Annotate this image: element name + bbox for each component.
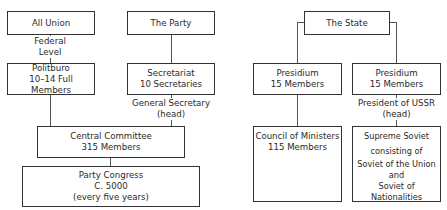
connector-state-right-v	[396, 22, 397, 63]
politburo-box: Politburo 10–14 Full Members	[7, 63, 95, 95]
council-of-ministers-title: Council of Ministers	[255, 131, 339, 142]
connector-politburo-central	[50, 94, 51, 126]
party-congress-note: (every five years)	[73, 192, 149, 203]
supreme-soviet-union: Soviet of the Union	[357, 159, 435, 170]
the-party-title: The Party	[151, 18, 192, 29]
presidium-left-title: Presidium	[276, 68, 318, 79]
supreme-soviet-box: Supreme Soviet consisting of Soviet of t…	[352, 126, 441, 202]
secretariat-title: Secretariat	[147, 68, 194, 79]
supreme-soviet-and: and	[389, 170, 404, 181]
politburo-title: Politburo	[32, 63, 70, 74]
party-congress-title: Party Congress	[79, 170, 144, 181]
presidium-right-subtitle: 15 Members	[370, 79, 424, 90]
presidium-right-title: Presidium	[375, 68, 417, 79]
connector-central-congress	[110, 157, 111, 166]
the-party-box: The Party	[127, 11, 215, 35]
general-secretary-label: General Secretary (head)	[128, 98, 214, 120]
presidium-left-subtitle: 15 Members	[271, 79, 325, 90]
secretariat-box: Secretariat 10 Secretaries	[127, 63, 215, 95]
all-union-box: All Union	[7, 11, 95, 35]
supreme-soviet-title: Supreme Soviet	[364, 131, 429, 142]
all-union-title: All Union	[32, 18, 70, 29]
presidium-left-box: Presidium 15 Members	[253, 63, 342, 95]
connector-state-left-v	[297, 22, 298, 63]
party-congress-box: Party Congress C. 5000 (every five years…	[22, 166, 200, 207]
party-congress-subtitle: C. 5000	[94, 181, 127, 192]
supreme-soviet-consisting: consisting of	[371, 146, 423, 157]
connector-state-left-h	[297, 22, 304, 23]
connector-party-secretariat	[171, 34, 172, 63]
federal-level-label: Federal Level	[25, 36, 75, 58]
the-state-box: The State	[304, 11, 390, 35]
council-of-ministers-subtitle: 115 Members	[268, 142, 327, 153]
supreme-soviet-nationalities: Soviet of Nationalities	[353, 181, 440, 203]
secretariat-subtitle: 10 Secretaries	[140, 79, 202, 90]
central-committee-title: Central Committee	[70, 131, 152, 142]
politburo-subtitle: 10–14 Full Members	[8, 74, 94, 96]
council-of-ministers-box: Council of Ministers 115 Members	[253, 126, 342, 202]
connector-state-right-h	[389, 22, 396, 23]
the-state-title: The State	[326, 18, 367, 29]
presidium-right-box: Presidium 15 Members	[352, 63, 441, 95]
central-committee-subtitle: 315 Members	[82, 142, 141, 153]
president-of-ussr-label: President of USSR (head)	[353, 98, 440, 120]
connector-presidium-council	[297, 94, 298, 126]
central-committee-box: Central Committee 315 Members	[37, 126, 185, 158]
